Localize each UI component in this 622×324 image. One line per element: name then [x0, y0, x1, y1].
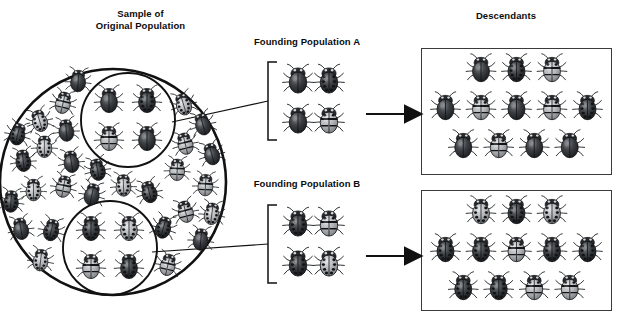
descendant-top-r2c3-plain-dark	[502, 92, 532, 120]
arrows	[366, 114, 406, 256]
founding-a-beetle-4-striped-light	[314, 104, 345, 133]
bracket-founding-b	[268, 205, 277, 283]
bracket-founding-a	[268, 62, 277, 140]
descendant-top-r2c1-plain-dark	[431, 92, 461, 120]
founding-a-beetle-1-plain-dark	[283, 64, 314, 93]
descendant-bottom-r3c2-spotted-dark	[484, 272, 514, 300]
founding-a-beetle-3-plain-dark	[283, 104, 314, 133]
descendant-bottom-r1c1-spotted-light	[466, 196, 496, 224]
descendant-bottom-r2c2-spotted-dark	[466, 234, 496, 262]
descendant-top-r1c1-plain-dark	[466, 54, 496, 82]
descendant-top-r3c1-plain-dark	[448, 130, 478, 158]
descendant-bottom-r2c1-spotted-dark	[431, 234, 461, 262]
descendant-top-r2c4-striped-light	[537, 92, 567, 120]
descendant-top-r3c2-striped-light	[484, 130, 514, 158]
founding-b-beetle-4-spotted-light	[314, 247, 345, 276]
descendant-top-r1c3-striped-light	[537, 54, 567, 82]
descendant-bottom-r3c1-spotted-dark	[448, 272, 478, 300]
descendant-top-r2c5-spotted-dark	[573, 92, 603, 120]
descendant-top-r3c4-plain-dark	[555, 130, 585, 158]
founding-b-beetle-1-spotted-dark	[283, 207, 314, 236]
descendant-top-r1c2-spotted-dark	[502, 54, 532, 82]
descendant-top-r3c3-plain-dark	[519, 130, 549, 158]
descendant-bottom-r2c5-spotted-dark	[573, 234, 603, 262]
diagram-canvas: Sample of Original Population Founding P…	[0, 0, 622, 324]
descendant-top-r2c2-striped-light	[466, 92, 496, 120]
descendant-bottom-r3c3-striped-light	[519, 272, 549, 300]
founding-b-beetle-3-spotted-dark	[283, 247, 314, 276]
diagram-vector-layer	[0, 0, 622, 324]
descendant-bottom-r1c2-spotted-dark	[502, 196, 532, 224]
descendant-bottom-r2c4-spotted-dark	[537, 234, 567, 262]
descendant-bottom-r2c3-striped-light	[502, 234, 532, 262]
founding-b-beetle-2-striped-light	[314, 207, 345, 236]
population-brackets	[268, 62, 277, 283]
founding-a-beetle-2-spotted-dark	[314, 64, 345, 93]
descendant-bottom-r3c4-striped-light	[555, 272, 585, 300]
descendant-bottom-r1c3-spotted-light	[537, 196, 567, 224]
